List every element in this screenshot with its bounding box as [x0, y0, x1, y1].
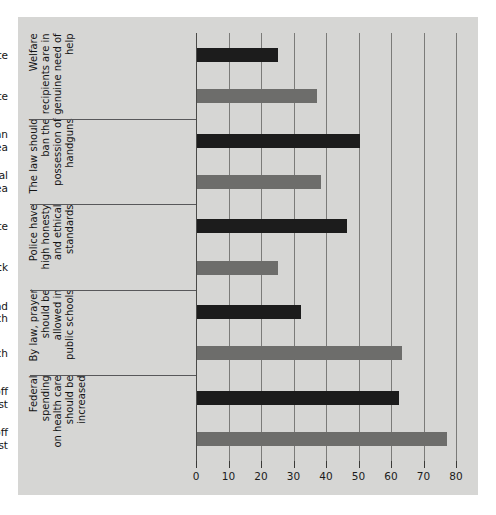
x-tick-60 [391, 461, 392, 468]
x-tick-10 [229, 461, 230, 468]
x-tick-label-80: 80 [436, 470, 476, 482]
bar [197, 175, 321, 189]
x-tick-80 [456, 461, 457, 468]
group-label: Police have high honesty and ethical sta… [28, 204, 76, 290]
x-axis: 01020304050607080 [196, 461, 456, 495]
x-tick-50 [359, 461, 360, 468]
bar-category-label: Respondent is nonwhite [0, 90, 8, 103]
bar-category-label: Respondent lives in a rural area [0, 169, 8, 194]
group-separator [30, 119, 196, 120]
bar-category-label: Respondent does not attend church [0, 300, 8, 325]
bar [197, 432, 447, 446]
bar [197, 48, 278, 62]
x-tick-20 [261, 461, 262, 468]
gridline-80 [456, 33, 457, 461]
bar-category-label: Respondent is black [0, 261, 8, 274]
group-separator [30, 204, 196, 205]
figure: 01020304050607080 Respondent is whiteRes… [0, 0, 496, 515]
group-separator [30, 290, 196, 291]
chart-panel: 01020304050607080 Respondent is whiteRes… [18, 17, 478, 495]
gridline-70 [424, 33, 425, 461]
bar [197, 89, 317, 103]
bar-category-label: Respondent has not put off medical care … [0, 385, 8, 410]
bar [197, 391, 399, 405]
bar-category-label: Respondent is white [0, 220, 8, 233]
bar [197, 134, 360, 148]
bar-category-label: Respondent lives in an urban area [0, 128, 8, 153]
x-tick-30 [294, 461, 295, 468]
bar-category-label: Respondent is white [0, 49, 8, 62]
plot-area [196, 33, 456, 461]
x-tick-70 [424, 461, 425, 468]
bar-category-label: Respondent attends church [0, 347, 8, 360]
x-tick-0 [196, 461, 197, 468]
group-label: Federal spending on health care should b… [28, 375, 88, 461]
group-separator [30, 375, 196, 376]
bar [197, 219, 347, 233]
group-label: Welfare recipients are in genuine need o… [28, 33, 76, 119]
group-label: By law, prayer should be allowed in publ… [28, 290, 76, 376]
bar-category-label: Respondent has put off medical care due … [0, 426, 8, 451]
x-tick-40 [326, 461, 327, 468]
bar [197, 261, 278, 275]
group-label: The law should ban the possession of han… [28, 119, 76, 205]
bar [197, 305, 301, 319]
bar [197, 346, 402, 360]
